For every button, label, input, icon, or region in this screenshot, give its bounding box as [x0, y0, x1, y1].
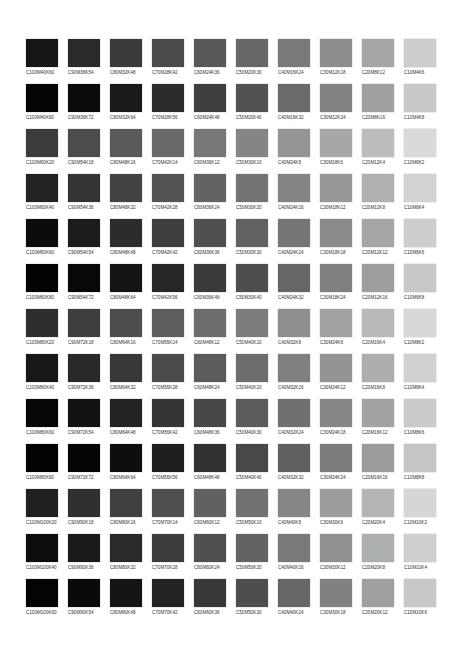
color-swatch	[320, 444, 352, 472]
swatch-cell: C40M24K24	[278, 219, 320, 264]
swatch-label: C10M10K2	[404, 520, 446, 525]
color-swatch	[320, 39, 352, 67]
color-swatch	[110, 534, 142, 562]
swatch-cell: C30M24K6	[320, 309, 362, 354]
swatch-cell: C60M60K24	[194, 534, 236, 579]
swatch-label: C90M72K18	[68, 340, 110, 345]
swatch-label: C10M6K2	[404, 160, 446, 165]
swatch-label: C40M24K32	[278, 295, 320, 300]
swatch-label: C90M54K36	[68, 205, 110, 210]
swatch-label: C80M64K48	[110, 430, 152, 435]
color-swatch	[404, 399, 436, 427]
color-swatch	[236, 264, 268, 292]
swatch-label: C20M8K12	[362, 70, 404, 75]
swatch-cell: C40M24K8	[278, 129, 320, 174]
color-swatch	[404, 39, 436, 67]
swatch-label: C10M6K8	[404, 295, 446, 300]
swatch-label: C100M60K40	[26, 205, 68, 210]
swatch-cell: C10M6K8	[404, 264, 446, 309]
color-swatch	[320, 354, 352, 382]
color-swatch	[278, 489, 310, 517]
swatch-cell: C100M60K80	[26, 264, 68, 309]
color-swatch	[362, 129, 394, 157]
color-swatch	[68, 309, 100, 337]
color-swatch	[68, 534, 100, 562]
swatch-row: C100M80K80C90M72K72C80M64K64C70M56K56C60…	[26, 444, 446, 489]
color-swatch	[26, 174, 58, 202]
color-swatch	[194, 129, 226, 157]
color-swatch	[194, 534, 226, 562]
swatch-label: C80M80K32	[110, 565, 152, 570]
swatch-label: C80M80K16	[110, 520, 152, 525]
swatch-cell: C80M48K64	[110, 264, 152, 309]
swatch-cell: C50M40K30	[236, 399, 278, 444]
swatch-label: C80M64K16	[110, 340, 152, 345]
color-swatch	[278, 264, 310, 292]
color-swatch	[152, 534, 184, 562]
color-swatch	[152, 174, 184, 202]
color-swatch	[152, 129, 184, 157]
swatch-cell: C50M50K20	[236, 534, 278, 579]
swatch-label: C30M12K24	[320, 115, 362, 120]
color-swatch	[26, 579, 58, 607]
color-swatch	[320, 129, 352, 157]
color-swatch	[362, 354, 394, 382]
swatch-label: C50M50K30	[236, 610, 278, 615]
color-swatch	[278, 534, 310, 562]
color-swatch	[194, 489, 226, 517]
color-swatch	[110, 309, 142, 337]
swatch-label: C60M36K48	[194, 295, 236, 300]
swatch-row: C100M40K60C90M36K54C80M32K48C70M28K42C60…	[26, 39, 446, 84]
swatch-label: C30M24K6	[320, 340, 362, 345]
color-swatch	[236, 219, 268, 247]
color-swatch	[194, 579, 226, 607]
swatch-label: C30M18K24	[320, 295, 362, 300]
swatch-label: C40M24K8	[278, 160, 320, 165]
swatch-cell: C30M30K12	[320, 534, 362, 579]
swatch-label: C60M48K12	[194, 340, 236, 345]
color-swatch	[110, 174, 142, 202]
swatch-cell: C100M80K80	[26, 444, 68, 489]
swatch-label: C90M72K36	[68, 385, 110, 390]
swatch-label: C30M24K18	[320, 430, 362, 435]
color-swatch	[68, 39, 100, 67]
swatch-label: C30M12K18	[320, 70, 362, 75]
swatch-label: C50M20K40	[236, 115, 278, 120]
swatch-row: C100M100K40C90M90K36C80M80K32C70M70K28C6…	[26, 534, 446, 579]
swatch-label: C100M100K40	[26, 565, 68, 570]
color-swatch	[68, 354, 100, 382]
swatch-cell: C20M12K12	[362, 219, 404, 264]
swatch-cell: C90M36K72	[68, 84, 110, 129]
color-swatch	[26, 39, 58, 67]
swatch-row: C100M100K60C90M90K54C80M80K48C70M70K42C6…	[26, 579, 446, 624]
swatch-label: C50M30K20	[236, 205, 278, 210]
color-swatch	[236, 354, 268, 382]
swatch-cell: C60M48K36	[194, 399, 236, 444]
swatch-label: C20M12K16	[362, 295, 404, 300]
swatch-label: C100M80K40	[26, 385, 68, 390]
color-swatch	[152, 579, 184, 607]
swatch-label: C30M30K6	[320, 520, 362, 525]
swatch-label: C70M70K42	[152, 610, 194, 615]
swatch-cell: C20M8K16	[362, 84, 404, 129]
color-swatch	[26, 354, 58, 382]
color-swatch	[404, 534, 436, 562]
swatch-label: C70M28K56	[152, 115, 194, 120]
swatch-cell: C30M12K18	[320, 39, 362, 84]
swatch-cell: C90M54K54	[68, 219, 110, 264]
swatch-cell: C80M32K64	[110, 84, 152, 129]
swatch-cell: C50M30K40	[236, 264, 278, 309]
swatch-cell: C10M8K8	[404, 444, 446, 489]
swatch-label: C10M4K8	[404, 115, 446, 120]
color-swatch	[194, 84, 226, 112]
swatch-cell: C90M72K72	[68, 444, 110, 489]
swatch-cell: C60M36K24	[194, 174, 236, 219]
swatch-cell: C70M70K14	[152, 489, 194, 534]
swatch-label: C80M48K48	[110, 250, 152, 255]
color-swatch	[152, 354, 184, 382]
color-swatch	[26, 534, 58, 562]
swatch-cell: C30M18K18	[320, 219, 362, 264]
swatch-cell: C90M72K18	[68, 309, 110, 354]
swatch-label: C60M48K36	[194, 430, 236, 435]
swatch-label: C90M72K72	[68, 475, 110, 480]
